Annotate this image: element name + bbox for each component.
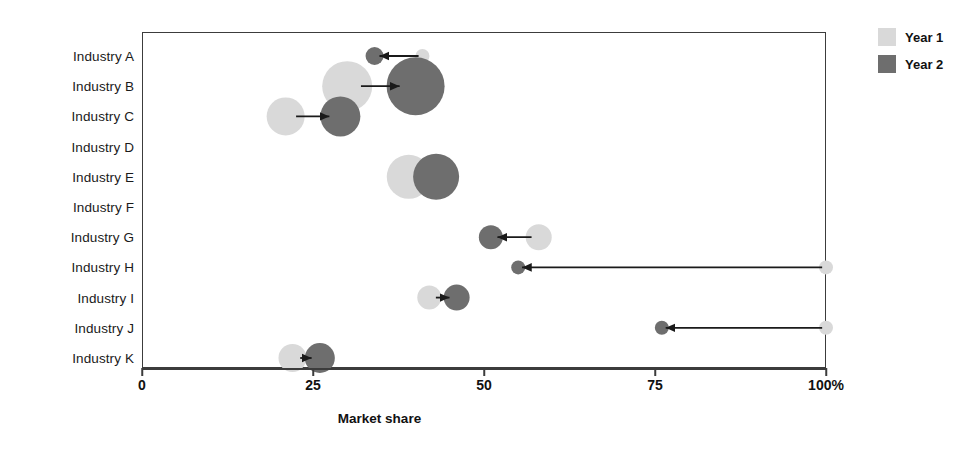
x-axis-tick-label: 25 bbox=[305, 377, 321, 393]
x-axis-title: Market share bbox=[0, 411, 979, 426]
x-axis-title-text: Market share bbox=[338, 411, 421, 426]
x-axis-tick bbox=[825, 368, 827, 376]
legend-item-year-2: Year 2 bbox=[878, 55, 979, 73]
category-label: Industry D bbox=[0, 139, 134, 154]
x-axis-tick-label: 100% bbox=[808, 377, 844, 393]
category-label: Industry G bbox=[0, 230, 134, 245]
category-label: Industry F bbox=[0, 200, 134, 215]
x-axis-tick bbox=[483, 368, 485, 376]
x-axis-tick-label: 50 bbox=[476, 377, 492, 393]
x-axis-tick-label: 75 bbox=[647, 377, 663, 393]
legend-item-year-1: Year 1 bbox=[878, 28, 979, 46]
legend-label-year-1: Year 1 bbox=[905, 30, 943, 45]
category-label: Industry C bbox=[0, 109, 134, 124]
series-plot-layer bbox=[142, 32, 826, 368]
category-axis-labels: Industry AIndustry BIndustry CIndustry D… bbox=[0, 32, 134, 368]
category-label: Industry E bbox=[0, 169, 134, 184]
legend-swatch-year-2-icon bbox=[878, 55, 896, 73]
legend: Year 1 Year 2 bbox=[878, 28, 979, 82]
x-axis-tick-label: 0 bbox=[138, 377, 146, 393]
category-label: Industry I bbox=[0, 290, 134, 305]
x-axis-tick bbox=[654, 368, 656, 376]
legend-label-year-2: Year 2 bbox=[905, 57, 943, 72]
category-label: Industry H bbox=[0, 260, 134, 275]
category-label: Industry J bbox=[0, 320, 134, 335]
x-axis-tick bbox=[141, 368, 143, 376]
category-label: Industry B bbox=[0, 79, 134, 94]
bubble-chart: Industry AIndustry BIndustry CIndustry D… bbox=[0, 0, 979, 454]
category-label: Industry A bbox=[0, 49, 134, 64]
category-label: Industry K bbox=[0, 351, 134, 366]
bubble-year-2 bbox=[413, 154, 459, 200]
x-axis-tick bbox=[312, 368, 314, 376]
legend-swatch-year-1-icon bbox=[878, 28, 896, 46]
